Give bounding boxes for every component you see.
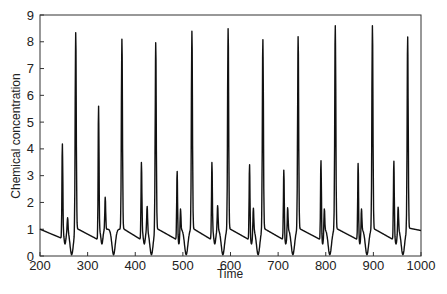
y-tick-label: 2 [27,195,34,210]
y-tick-label: 7 [27,61,34,76]
y-tick-label: 5 [27,115,34,130]
y-tick-label: 1 [27,222,34,237]
x-axis-label: Time [217,267,244,281]
y-tick-label: 4 [27,141,34,156]
x-tick-label: 400 [124,258,146,273]
x-tick-label: 200 [29,258,51,273]
x-tick-label: 800 [315,258,337,273]
concentration-line [40,26,421,255]
y-tick-label: 6 [27,88,34,103]
x-tick-label: 300 [77,258,99,273]
y-tick-label: 9 [27,8,34,23]
x-tick-label: 700 [267,258,289,273]
y-axis-ticks: 0123456789 [27,8,44,264]
y-axis-label: Chemical concentration [9,73,23,198]
concentration-chart: 0123456789 2003004005006007008009001000 … [0,0,447,294]
x-tick-label: 900 [363,258,385,273]
x-tick-label: 500 [172,258,194,273]
x-tick-label: 1000 [407,258,436,273]
y-tick-label: 3 [27,168,34,183]
y-tick-label: 8 [27,34,34,49]
